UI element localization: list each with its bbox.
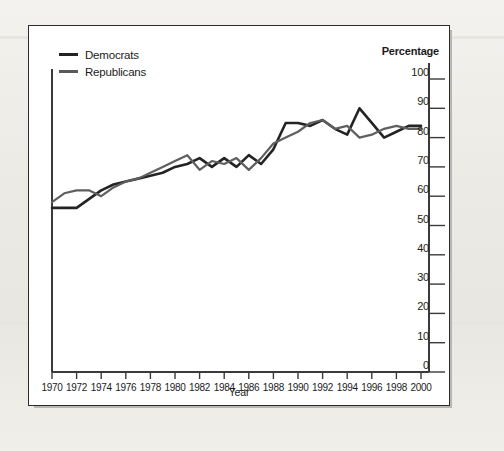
- y-tick-50: 50: [403, 213, 429, 225]
- y-tick-0: 0: [403, 359, 429, 371]
- y-tick-90: 90: [403, 95, 429, 107]
- y-tick-20: 20: [403, 300, 429, 312]
- series-line-republicans: [52, 120, 421, 202]
- y-tick-10: 10: [403, 330, 429, 342]
- chart-panel: Democrats Republicans Percentage 1009080…: [28, 25, 450, 406]
- y-tick-80: 80: [403, 125, 429, 137]
- y-tick-100: 100: [403, 66, 429, 78]
- y-tick-40: 40: [403, 242, 429, 254]
- y-tick-30: 30: [403, 271, 429, 283]
- x-axis-title: Year: [29, 386, 449, 398]
- y-tick-70: 70: [403, 154, 429, 166]
- chart-plot-area: [29, 26, 449, 405]
- y-tick-60: 60: [403, 183, 429, 195]
